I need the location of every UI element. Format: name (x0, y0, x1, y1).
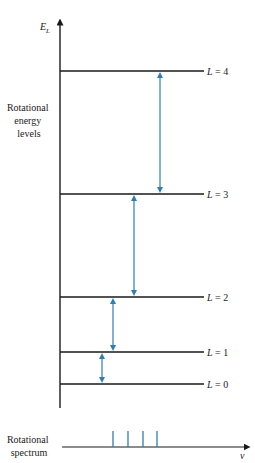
energy-levels: L = 4L = 3L = 2L = 1L = 0 (60, 66, 228, 390)
transitions (102, 75, 160, 380)
level-label-L3: L = 3 (206, 189, 228, 200)
level-label-L4: L = 4 (206, 66, 228, 77)
frequency-axis-label: ν (240, 450, 245, 461)
energy-axis-label: EL (39, 21, 50, 35)
level-label-L0: L = 0 (206, 379, 228, 390)
spectrum-lines (113, 431, 157, 447)
level-label-L2: L = 2 (206, 292, 228, 303)
level-label-L1: L = 1 (206, 347, 228, 358)
rotational-spectrum-label: Rotational spectrum (7, 434, 51, 458)
rotational-energy-diagram: EL Rotational energy levels L = 4L = 3L … (0, 0, 255, 463)
rotational-energy-levels-label: Rotational energy levels (7, 102, 51, 139)
